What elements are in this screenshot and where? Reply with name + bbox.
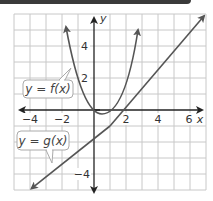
x-tick-6: 6 [186, 113, 193, 126]
axes [20, 18, 202, 192]
callout-f-text: y = f(x) [24, 82, 70, 96]
graph: −4 −2 2 4 6 x 4 2 −4 y y = f(x) y = g(x) [0, 0, 213, 201]
x-tick-2: 2 [123, 113, 130, 126]
y-tick-4: 4 [81, 40, 88, 53]
y-tick-labels: 4 2 −4 y [74, 12, 107, 181]
y-tick-2: 2 [81, 72, 88, 85]
x-tick-labels: −4 −2 2 4 6 x [22, 113, 204, 126]
x-tick-4: 4 [155, 113, 162, 126]
x-tick-neg4: −4 [22, 113, 38, 126]
y-axis-label: y [99, 12, 107, 25]
callout-g-text: y = g(x) [18, 134, 68, 148]
grid [14, 14, 206, 190]
y-tick-neg4: −4 [74, 168, 90, 181]
x-tick-neg2: −2 [54, 113, 70, 126]
x-axis-label: x [196, 113, 204, 126]
